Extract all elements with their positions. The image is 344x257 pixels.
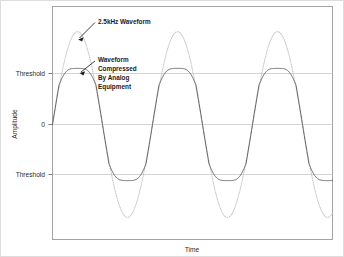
annotation-compressed-line-1: Waveform [98,56,129,63]
x-axis-title: Time [185,246,200,253]
annotation-sine-label: 2.5kHz Waveform [98,18,151,25]
plot-frame [53,7,333,240]
waveform-chart: 2.5kHz Waveform Waveform Compressed By A… [0,0,344,257]
y-tick-label-lower-threshold: Threshold [16,171,46,178]
annotation-compressed-line-4: Equipment [98,83,132,91]
figure-container: 2.5kHz Waveform Waveform Compressed By A… [0,0,344,257]
y-tick-label-upper-threshold: Threshold [16,70,46,77]
y-axis-title: Amplitude [11,109,19,139]
y-tick-label-zero: 0 [41,121,45,128]
annotation-compressed-line-3: By Analog [98,74,129,82]
annotation-compressed-line-2: Compressed [98,65,137,73]
